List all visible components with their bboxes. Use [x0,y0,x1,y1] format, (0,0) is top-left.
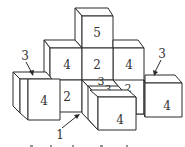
cube-top-center: 5 [75,8,113,48]
cube-far-left-label: 4 [40,94,48,108]
cube-front-center-label: 4 [116,113,124,127]
callout-right: 3 [153,47,166,76]
callout-right-label: 3 [158,47,166,61]
cube-lower-center-left: 2 [58,80,82,112]
cube-middle-left: 4 [44,40,82,80]
cube-stack-diagram: 5 4 4 2 2 3 [0,0,185,147]
cube-lower-center-left-label: 2 [63,90,71,104]
cube-middle-left-label: 4 [63,58,71,72]
cube-far-right-label: 4 [163,99,171,113]
top-label-3a: 3 [98,75,105,88]
cube-middle-right-label: 4 [125,58,133,72]
cube-middle-center-label: 2 [93,58,101,72]
callout-bottom-label: 1 [56,128,64,142]
callout-left-label: 3 [21,49,29,63]
cube-top-center-label: 5 [93,26,101,40]
cube-far-right: 4 [144,75,182,117]
cube-far-left: 4 [13,72,60,120]
